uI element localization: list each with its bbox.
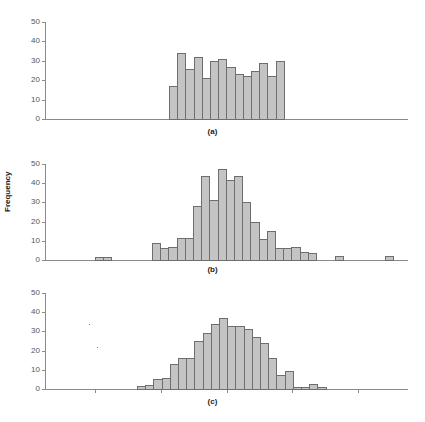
- y-tick: [42, 312, 45, 313]
- histogram-outlier-bar: [335, 256, 344, 261]
- caption-a: (a): [0, 127, 425, 136]
- y-tick: [42, 183, 45, 184]
- y-tick-label: 10: [10, 96, 40, 104]
- y-tick: [42, 351, 45, 352]
- y-tick-label: 50: [10, 160, 40, 168]
- x-tick: [292, 390, 293, 393]
- y-tick: [42, 22, 45, 23]
- y-tick: [42, 331, 45, 332]
- histogram-bar: [276, 61, 285, 120]
- caption-c: (c): [0, 397, 425, 406]
- y-tick: [42, 61, 45, 62]
- y-axis: [45, 164, 46, 261]
- y-tick-label: 30: [10, 198, 40, 206]
- y-tick: [42, 389, 45, 390]
- y-tick-label: 0: [10, 385, 40, 393]
- y-tick-label: 0: [10, 115, 40, 123]
- y-tick: [42, 202, 45, 203]
- histogram-outlier-bar: [103, 257, 112, 261]
- x-tick: [95, 390, 96, 393]
- y-tick: [42, 119, 45, 120]
- y-tick-label: 40: [10, 179, 40, 187]
- y-tick-label: 40: [10, 37, 40, 45]
- y-tick-label: 10: [10, 366, 40, 374]
- y-tick-label: 10: [10, 237, 40, 245]
- scan-speck: [89, 324, 90, 325]
- y-tick: [42, 80, 45, 81]
- y-tick: [42, 222, 45, 223]
- y-tick-label: 30: [10, 57, 40, 65]
- y-tick-label: 0: [10, 256, 40, 264]
- y-tick-label: 20: [10, 347, 40, 355]
- y-axis: [45, 22, 46, 120]
- y-tick: [42, 41, 45, 42]
- y-tick: [42, 241, 45, 242]
- histogram-outlier-bar: [385, 256, 394, 261]
- y-tick: [42, 293, 45, 294]
- scan-speck: [97, 347, 98, 348]
- histogram-bar: [317, 387, 326, 390]
- y-tick: [42, 370, 45, 371]
- y-tick: [42, 100, 45, 101]
- y-tick: [42, 260, 45, 261]
- x-tick: [227, 390, 228, 393]
- y-tick-label: 40: [10, 308, 40, 316]
- y-tick: [42, 164, 45, 165]
- y-tick-label: 30: [10, 327, 40, 335]
- y-tick-label: 20: [10, 76, 40, 84]
- y-tick-label: 50: [10, 18, 40, 26]
- y-tick-label: 50: [10, 289, 40, 297]
- histogram-bar: [308, 253, 317, 261]
- caption-b: (b): [0, 265, 425, 274]
- x-tick: [358, 390, 359, 393]
- x-tick: [161, 390, 162, 393]
- y-axis: [45, 293, 46, 390]
- y-tick-label: 20: [10, 218, 40, 226]
